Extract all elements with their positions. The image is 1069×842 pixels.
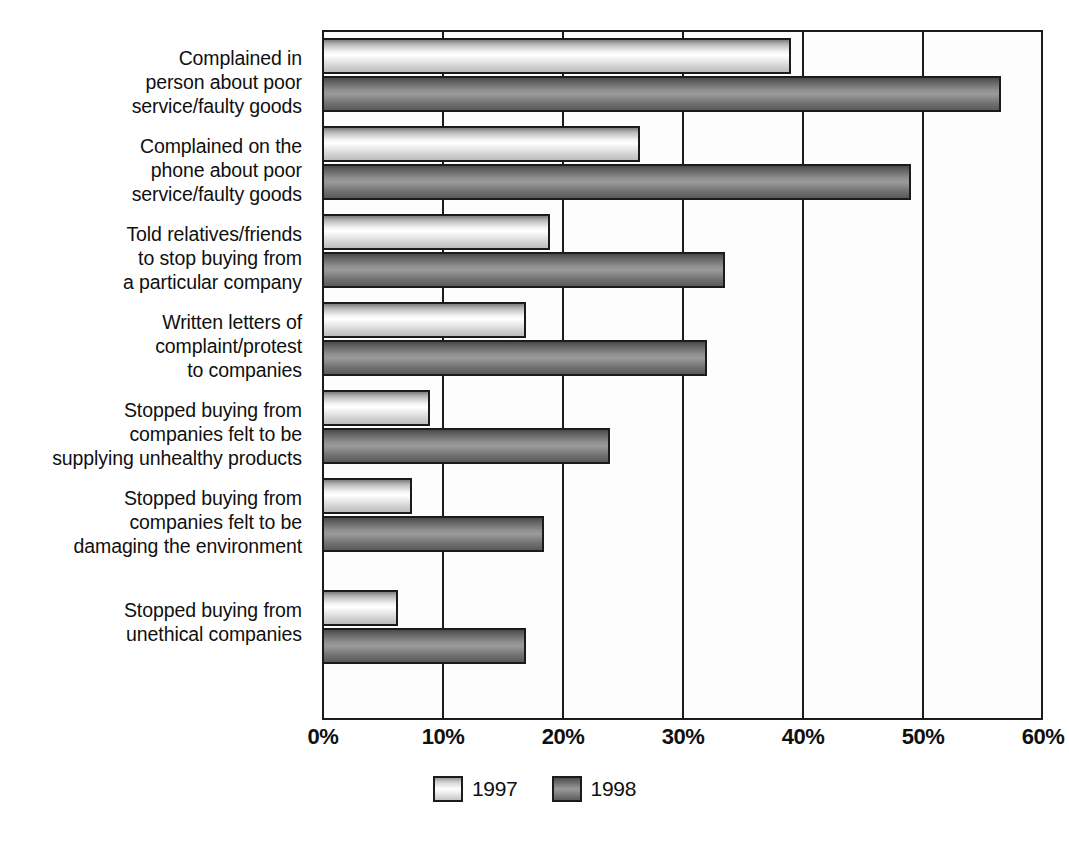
category-label: Written letters of complaint/protest to … [0, 310, 302, 382]
category-label-line: Stopped buying from [0, 486, 302, 510]
bar-1998 [322, 340, 707, 376]
legend-swatch-icon [433, 776, 463, 802]
category-label-line: service/faulty goods [0, 94, 302, 118]
category-label-line: phone about poor [0, 158, 302, 182]
category-label-line: companies felt to be [0, 510, 302, 534]
category-label-line: Stopped buying from [0, 398, 302, 422]
chart-legend: 1997 1998 [0, 776, 1069, 802]
bar-group [322, 472, 1043, 560]
bar-group [322, 208, 1043, 296]
category-label-line: a particular company [0, 270, 302, 294]
bar-1998 [322, 428, 610, 464]
category-label-line: to stop buying from [0, 246, 302, 270]
category-label-line: complaint/protest [0, 334, 302, 358]
bar-group [322, 120, 1043, 208]
x-tick-label: 10% [403, 724, 483, 750]
category-label-line: supplying unhealthy products [0, 446, 302, 470]
category-label-line: Written letters of [0, 310, 302, 334]
bar-group [322, 384, 1043, 472]
legend-item-1997: 1997 [433, 776, 518, 802]
category-axis-labels: Complained in person about poor service/… [0, 30, 312, 720]
bar-1998 [322, 252, 725, 288]
bar-1998 [322, 76, 1001, 112]
x-tick-label: 30% [643, 724, 723, 750]
bar-1998 [322, 628, 526, 664]
category-label: Complained in person about poor service/… [0, 46, 302, 118]
x-axis-tick-labels: 0% 10% 20% 30% 40% 50% 60% [0, 724, 1069, 764]
category-label-line: companies felt to be [0, 422, 302, 446]
bar-1997 [322, 38, 791, 74]
bar-1997 [322, 478, 412, 514]
x-tick-label: 60% [1003, 724, 1069, 750]
x-tick-label: 50% [883, 724, 963, 750]
bar-chart: Complained in person about poor service/… [0, 0, 1069, 842]
x-tick-label: 20% [523, 724, 603, 750]
category-label-line: unethical companies [0, 622, 302, 646]
category-label-line: Complained in [0, 46, 302, 70]
category-label-line: service/faulty goods [0, 182, 302, 206]
bar-1997 [322, 390, 430, 426]
category-label: Stopped buying from unethical companies [0, 598, 302, 646]
bar-1997 [322, 214, 550, 250]
bar-1997 [322, 590, 398, 626]
category-label-line: Complained on the [0, 134, 302, 158]
legend-label: 1998 [591, 777, 637, 801]
category-label-line: person about poor [0, 70, 302, 94]
category-label-line: to companies [0, 358, 302, 382]
category-label-line: Told relatives/friends [0, 222, 302, 246]
bar-group [322, 296, 1043, 384]
bar-group [322, 32, 1043, 120]
bar-1997 [322, 126, 640, 162]
legend-swatch-icon [552, 776, 582, 802]
category-label: Stopped buying from companies felt to be… [0, 486, 302, 558]
category-label: Complained on the phone about poor servi… [0, 134, 302, 206]
legend-item-1998: 1998 [552, 776, 637, 802]
category-label-line: damaging the environment [0, 534, 302, 558]
category-label-line: Stopped buying from [0, 598, 302, 622]
bar-group [322, 584, 1043, 672]
bar-1998 [322, 164, 911, 200]
category-label: Stopped buying from companies felt to be… [0, 398, 302, 470]
x-tick-label: 40% [763, 724, 843, 750]
x-tick-label: 0% [283, 724, 363, 750]
bar-1997 [322, 302, 526, 338]
bars-layer [322, 30, 1043, 720]
category-label: Told relatives/friends to stop buying fr… [0, 222, 302, 294]
bar-1998 [322, 516, 544, 552]
legend-label: 1997 [472, 777, 518, 801]
